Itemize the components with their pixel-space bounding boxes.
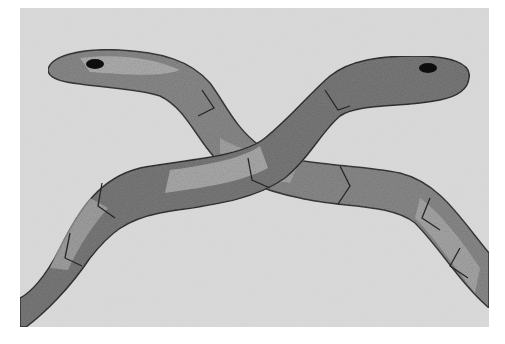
- snake-photograph: [20, 8, 489, 327]
- eye-icon: [86, 59, 104, 69]
- snakes-illustration: [20, 8, 489, 327]
- eye-icon: [419, 63, 437, 73]
